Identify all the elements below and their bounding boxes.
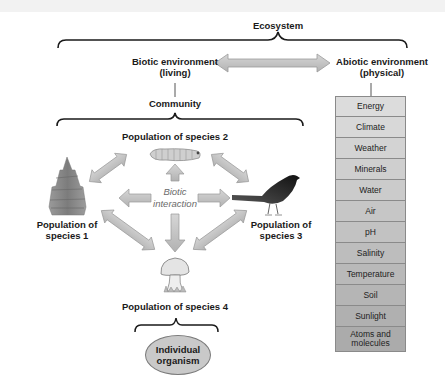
abiotic-factor-atoms-molecules: Atoms and molecules — [335, 327, 406, 352]
abiotic-factor-energy: Energy — [335, 96, 406, 117]
biotic-interaction-line2: interaction — [145, 198, 205, 210]
abiotic-factor-air: Air — [335, 201, 406, 222]
ecosystem-label: Ecosystem — [248, 20, 308, 31]
species3-label-line2: species 3 — [236, 230, 326, 241]
abiotic-factor-soil: Soil — [335, 285, 406, 306]
arrow-species2-species3 — [207, 148, 254, 188]
caterpillar-icon — [150, 149, 200, 161]
abiotic-factor-weather: Weather — [335, 138, 406, 159]
abiotic-factor-salinity: Salinity — [335, 243, 406, 264]
abiotic-factor-water: Water — [335, 180, 406, 201]
ecosystem-brace — [58, 32, 407, 48]
abiotic-factor-sunlight: Sunlight — [335, 306, 406, 327]
individual-brace — [135, 318, 218, 332]
abiotic-environment-subtitle: (physical) — [326, 67, 438, 78]
biotic-interaction-line1: Biotic — [145, 186, 205, 198]
arrow-species2-species1 — [85, 148, 132, 188]
abiotic-factor-minerals: Minerals — [335, 159, 406, 180]
mushroom-icon — [161, 258, 189, 292]
abiotic-factor-temperature: Temperature — [335, 264, 406, 285]
species4-label: Population of species 4 — [110, 301, 240, 312]
biotic-environment-subtitle: (living) — [120, 67, 230, 78]
community-label: Community — [135, 98, 215, 109]
arrow-interaction-up — [166, 164, 184, 181]
biotic-abiotic-double-arrow — [215, 54, 330, 72]
abiotic-factor-ph: pH — [335, 222, 406, 243]
species2-label: Population of species 2 — [110, 131, 240, 142]
tree-icon — [49, 157, 86, 215]
abiotic-factors-column: Energy Climate Weather Minerals Water Ai… — [335, 96, 406, 352]
arrow-interaction-down — [165, 214, 185, 252]
individual-organism-line1: Individual — [156, 344, 200, 355]
abiotic-factor-climate: Climate — [335, 117, 406, 138]
individual-organism-ellipse: Individual organism — [145, 335, 211, 375]
individual-organism-line2: organism — [156, 355, 200, 366]
species1-label-line2: species 1 — [22, 230, 112, 241]
biotic-environment-title: Biotic environment — [120, 56, 230, 67]
species1-label-line1: Population of — [22, 219, 112, 230]
community-brace — [57, 113, 303, 126]
species3-label-line1: Population of — [236, 219, 326, 230]
abiotic-environment-title: Abiotic environment — [326, 56, 438, 67]
